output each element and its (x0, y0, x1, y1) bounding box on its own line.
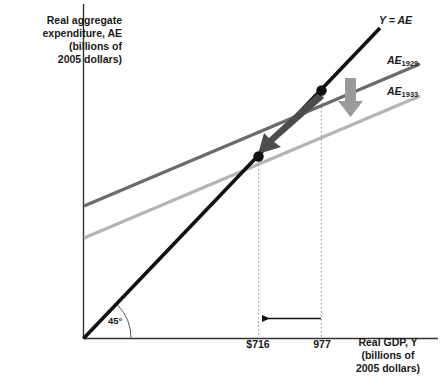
angle-label-45-degrees: 45° (108, 314, 122, 327)
x-tick-label-716: $716 (228, 338, 288, 351)
curve-label-ae-1929-text: AE (387, 54, 402, 66)
ae-1933-line (84, 96, 420, 238)
aggregate-expenditure-chart: Real aggregate expenditure, AE (billions… (0, 0, 440, 389)
curve-label-ae-1929-subscript: 1929 (402, 59, 419, 68)
curve-label-ae-1929: AE1929 (387, 54, 418, 68)
curve-label-ae-1933: AE1933 (387, 85, 418, 99)
x-axis-title: Real GDP, Y (billions of 2005 dollars) (338, 336, 438, 375)
curve-label-y-equals-ae: Y = AE (379, 14, 412, 27)
ae-1929-line (84, 64, 420, 206)
y-equals-ae-line (84, 28, 381, 339)
y-axis-title: Real aggregate expenditure, AE (billions… (0, 14, 122, 66)
equilibrium-point-1933 (253, 151, 263, 161)
curve-label-ae-1933-text: AE (387, 85, 402, 97)
equilibrium-move-arrow (258, 92, 324, 154)
curve-label-ae-1933-subscript: 1933 (402, 90, 419, 99)
x-tick-label-977: 977 (292, 338, 352, 351)
equilibrium-point-1929 (316, 85, 326, 95)
